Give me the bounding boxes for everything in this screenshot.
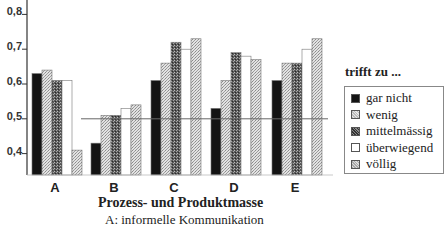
x-axis-title: Prozess- und Produktmasse [98, 195, 263, 211]
legend-label: mittelmässig [366, 123, 432, 139]
bar-D-3 [241, 56, 251, 175]
y-tick-label: 0,8 [0, 5, 22, 17]
bar-B-0 [91, 143, 101, 175]
bar-C-2 [171, 42, 181, 175]
legend-item: gar nicht [351, 90, 412, 106]
bar-B-4 [131, 105, 141, 175]
chart-caption: A: informelle Kommunikation [105, 212, 264, 228]
legend-item: wenig [351, 107, 398, 123]
x-tick-label-B: B [94, 180, 134, 195]
bar-E-3 [302, 49, 312, 175]
bar-B-2 [111, 115, 121, 175]
y-tick-label: 0,5 [0, 110, 22, 122]
y-tick-label: 0,7 [0, 40, 22, 52]
bar-D-2 [231, 53, 241, 175]
x-tick-label-D: D [214, 180, 254, 195]
bar-D-4 [251, 60, 261, 175]
legend-item: völlig [351, 156, 396, 172]
bar-C-4 [191, 39, 201, 175]
legend-swatch [351, 110, 360, 119]
legend-label: gar nicht [366, 90, 412, 106]
legend-swatch [351, 94, 360, 103]
bar-D-1 [221, 81, 231, 175]
bar-B-1 [101, 115, 111, 175]
y-tick-label: 0,4 [0, 145, 22, 157]
bar-A-3 [62, 81, 72, 175]
legend-swatch [351, 143, 360, 152]
legend-item: überwiegend [351, 140, 433, 156]
bar-A-2 [52, 81, 62, 175]
legend-label: völlig [366, 156, 396, 172]
legend: gar nichtwenigmittelmässigüberwiegendvöl… [344, 86, 444, 174]
y-tick-label: 0,6 [0, 75, 22, 87]
bar-C-3 [181, 49, 191, 175]
legend-title: trifft zu ... [345, 64, 401, 80]
legend-label: wenig [366, 107, 398, 123]
legend-label: überwiegend [366, 140, 433, 156]
legend-swatch [351, 127, 360, 136]
legend-swatch [351, 160, 360, 169]
legend-item: mittelmässig [351, 123, 432, 139]
bar-A-1 [42, 70, 52, 175]
bar-A-4 [72, 150, 82, 175]
bar-A-0 [32, 74, 42, 175]
bars-layer [32, 39, 322, 175]
x-tick-label-E: E [275, 180, 315, 195]
bar-chart: 0,40,50,60,70,8 ABCDE Prozess- und Produ… [0, 0, 445, 230]
bar-C-0 [151, 81, 161, 175]
x-tick-label-C: C [154, 180, 194, 195]
bar-E-4 [312, 39, 322, 175]
x-tick-label-A: A [35, 180, 75, 195]
bar-E-0 [272, 81, 282, 175]
